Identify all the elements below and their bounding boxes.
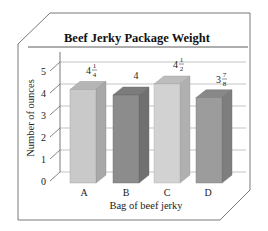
svg-text:7: 7 bbox=[223, 71, 227, 79]
svg-text:8: 8 bbox=[223, 80, 227, 88]
chart-canvas: Beef Jerky Package Weight 0 1 2 3 4 5 Nu… bbox=[0, 0, 268, 231]
y-tick: 2 bbox=[41, 132, 46, 143]
x-tick: B bbox=[123, 187, 130, 198]
bar-front bbox=[70, 90, 96, 184]
x-tick: C bbox=[164, 187, 171, 198]
svg-text:4: 4 bbox=[173, 59, 178, 70]
x-tick: D bbox=[204, 187, 211, 198]
x-tick: A bbox=[80, 187, 88, 198]
x-axis-label: Bag of beef jerky bbox=[109, 200, 183, 211]
y-tick: 5 bbox=[41, 66, 46, 77]
bar-side bbox=[222, 90, 232, 183]
value-label-B: 4 bbox=[134, 70, 139, 81]
bar-D bbox=[196, 90, 232, 183]
bar-front bbox=[196, 98, 222, 183]
bar-A bbox=[70, 82, 106, 184]
bar-front bbox=[154, 84, 180, 183]
svg-text:4: 4 bbox=[86, 65, 91, 76]
svg-text:4: 4 bbox=[134, 70, 139, 81]
bar-side bbox=[180, 76, 190, 183]
y-tick: 3 bbox=[41, 110, 46, 121]
svg-text:3: 3 bbox=[216, 74, 221, 85]
bar-side bbox=[96, 82, 106, 184]
bar-C bbox=[154, 76, 190, 183]
svg-text:2: 2 bbox=[180, 65, 184, 73]
y-tick: 1 bbox=[41, 154, 46, 165]
y-tick: 4 bbox=[41, 88, 46, 99]
svg-text:4: 4 bbox=[93, 71, 97, 79]
y-tick: 0 bbox=[41, 176, 46, 187]
bar-side bbox=[139, 87, 149, 183]
chart-title: Beef Jerky Package Weight bbox=[64, 31, 211, 45]
bar-front bbox=[113, 95, 139, 183]
svg-text:1: 1 bbox=[93, 62, 97, 70]
svg-text:1: 1 bbox=[180, 56, 184, 64]
bar-B bbox=[113, 87, 149, 183]
y-axis-label: Number of ounces bbox=[25, 79, 36, 157]
